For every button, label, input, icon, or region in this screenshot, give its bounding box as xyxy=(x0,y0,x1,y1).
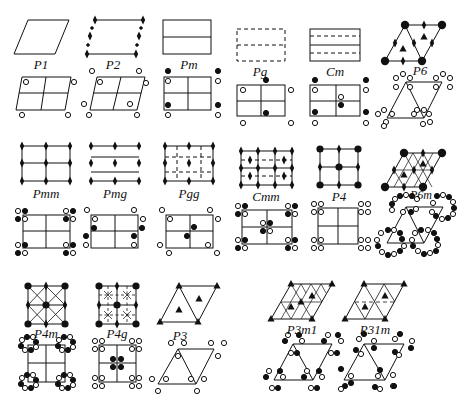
label-pg: Pg xyxy=(253,64,267,80)
pmg-pattern xyxy=(83,207,145,248)
pgg-cell xyxy=(163,142,215,186)
pg-pattern xyxy=(237,77,294,125)
label-cm: Cm xyxy=(326,64,344,80)
label-p3m1: P3m1 xyxy=(287,322,317,338)
wallpaper-groups-diagram xyxy=(0,0,468,411)
p4-cell xyxy=(316,145,361,190)
pm-cell xyxy=(163,20,211,54)
p3-cell xyxy=(156,282,220,325)
label-p31m: P31m xyxy=(360,322,390,338)
cm-cell xyxy=(310,29,360,61)
pmm-cell xyxy=(20,142,72,186)
p4m-pattern xyxy=(18,334,75,390)
label-p6: P6 xyxy=(413,63,427,79)
pmm-pattern xyxy=(15,208,75,255)
p6-cell xyxy=(381,21,446,66)
p3m1-pattern xyxy=(263,332,343,390)
label-p4: P4 xyxy=(332,189,346,205)
p4m-cell xyxy=(24,282,68,329)
pgg-pattern xyxy=(157,207,220,255)
label-cmm: Cmm xyxy=(252,189,279,205)
p3m1-cell xyxy=(267,280,335,322)
p3-pattern xyxy=(149,340,226,393)
pm-pattern xyxy=(164,68,221,117)
p1-pattern xyxy=(16,77,77,118)
p31m-cell xyxy=(341,280,407,322)
label-p4m: P4m xyxy=(34,326,58,342)
p2-cell xyxy=(85,16,145,59)
label-pm: Pm xyxy=(180,57,197,73)
label-pmg: Pmg xyxy=(103,186,127,202)
p4g-pattern xyxy=(92,338,141,388)
label-p6m: P6m xyxy=(410,188,432,203)
p6m-cell xyxy=(381,149,446,192)
p6-pattern xyxy=(375,71,452,128)
cm-pattern xyxy=(310,77,369,125)
label-p4g: P4g xyxy=(107,326,128,342)
pmg-cell xyxy=(89,142,141,186)
label-p2: P2 xyxy=(106,57,120,73)
pg-cell xyxy=(237,29,285,61)
p2-pattern xyxy=(81,68,148,117)
p31m-pattern xyxy=(338,331,414,391)
p4-pattern xyxy=(311,201,370,250)
label-p3: P3 xyxy=(173,328,187,344)
label-pgg: Pgg xyxy=(179,186,200,202)
p1-cell xyxy=(14,20,69,54)
p4g-cell xyxy=(95,282,139,329)
label-p1: P1 xyxy=(34,57,48,73)
cmm-cell xyxy=(239,147,294,190)
label-pmm: Pmm xyxy=(33,186,60,202)
cmm-pattern xyxy=(235,203,297,250)
